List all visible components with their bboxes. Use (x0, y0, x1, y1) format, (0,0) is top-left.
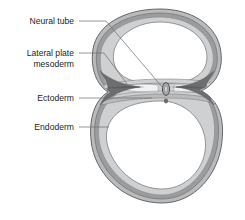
embryo-diagram-svg: Neural tube Lateral plate mesoderm Ectod… (0, 0, 245, 220)
labels-group: Neural tube Lateral plate mesoderm Ectod… (27, 16, 75, 132)
label-lateral-plate-mesoderm-line1: Lateral plate (27, 48, 75, 58)
label-ectoderm: Ectoderm (37, 93, 74, 103)
label-neural-tube: Neural tube (30, 16, 75, 26)
embryo-cross-section-figure: Neural tube Lateral plate mesoderm Ectod… (0, 0, 245, 220)
embryo-body (91, 9, 223, 203)
label-lateral-plate-mesoderm-line2: mesoderm (33, 59, 74, 69)
neural-tube-lumen (165, 86, 167, 92)
notochord-dot (164, 99, 167, 103)
label-endoderm: Endoderm (34, 122, 74, 132)
